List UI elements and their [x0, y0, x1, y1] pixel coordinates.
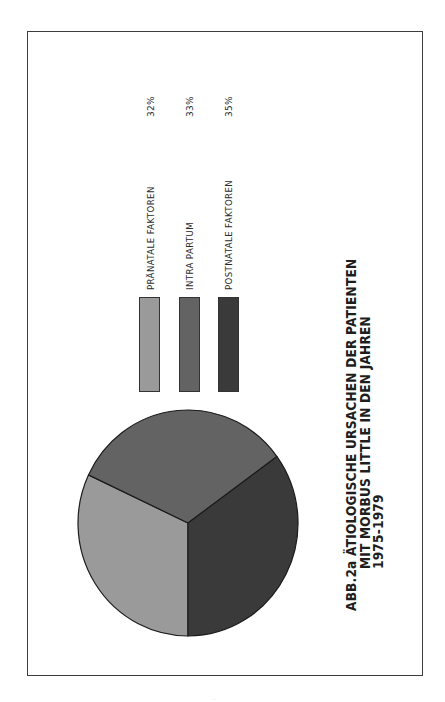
legend-swatch-postnatal [218, 297, 239, 392]
legend-value-praenatal: 32% [147, 96, 156, 117]
figure-title-line-3: 1975-1979 [372, 494, 386, 569]
figure-title-line-1: ABB.2a ÄTIOLOGISCHE URSACHEN DER PATIENT… [345, 259, 359, 611]
legend-swatch-praenatal [139, 297, 160, 392]
legend-label-praenatal: PRÄNATALE FAKTOREN [147, 186, 156, 290]
legend-label-postnatal: POSTNATALE FAKTOREN [225, 180, 234, 290]
legend-label-intra-partum: INTRA PARTUM [186, 222, 195, 290]
legend-swatch-intra-partum [179, 297, 200, 392]
legend-value-postnatal: 35% [225, 96, 234, 117]
pie-slices [78, 410, 298, 636]
legend-value-intra-partum: 33% [186, 96, 195, 117]
page-mark: ··· [212, 696, 217, 702]
